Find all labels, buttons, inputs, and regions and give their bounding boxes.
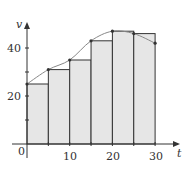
riemann-sum-chart: v t 0 10 20 30 20 40 (0, 0, 193, 170)
bar (134, 34, 155, 144)
data-point (68, 58, 71, 61)
y-axis-arrow-icon (24, 22, 30, 29)
origin-label: 0 (18, 145, 25, 158)
data-point (111, 30, 114, 33)
bars-group (27, 31, 155, 144)
data-point (154, 42, 157, 45)
y-tick-label-20: 20 (7, 90, 21, 103)
y-tick-label-40: 40 (7, 42, 21, 55)
bar (112, 31, 133, 144)
data-point (132, 32, 135, 35)
data-point (89, 39, 92, 42)
bar (91, 41, 112, 144)
x-tick-label-20: 20 (106, 150, 120, 163)
y-axis-label: v (16, 18, 23, 31)
x-tick-label-10: 10 (63, 150, 77, 163)
bar (27, 84, 48, 144)
bar (70, 60, 91, 144)
x-tick-label-30: 30 (149, 150, 163, 163)
data-point (47, 68, 50, 71)
bar (48, 70, 69, 144)
x-axis-label: t (177, 147, 182, 160)
